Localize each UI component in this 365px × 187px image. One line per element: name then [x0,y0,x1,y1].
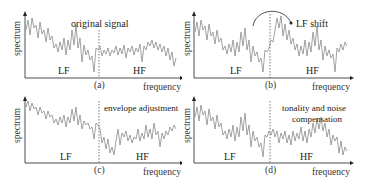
y-axis-label-a: spectrum [12,21,22,56]
annotation-b: LF shift [296,19,328,29]
band-label-lf-b: LF [230,66,242,76]
panel-d: spectrum tonality and noise compensation… [182,93,364,186]
band-label-lf-d: LF [224,152,236,162]
band-label-hf-a: HF [133,66,146,76]
spectrum-plot-a [0,0,182,93]
caption-b: (b) [265,80,276,90]
band-label-lf-c: LF [60,152,72,162]
y-axis-label-d: spectrum [182,108,192,143]
x-axis-label-a: frequency [143,82,181,92]
panel-c: spectrum envelope adjustment LF HF (c) f… [0,93,182,186]
panel-b: spectrum LF shift LF HF (b) frequency [182,0,364,93]
caption-a: (a) [94,80,105,90]
x-axis-label-b: frequency [312,82,350,92]
caption-c: (c) [94,165,105,175]
annotation-c: envelope adjustment [104,104,178,113]
annotation-a: original signal [71,19,129,29]
band-label-hf-c: HF [136,152,149,162]
band-label-lf-a: LF [58,66,70,76]
band-label-hf-b: HF [306,66,319,76]
x-axis-label-c: frequency [143,167,181,177]
x-axis-label-d: frequency [312,167,350,177]
y-axis-label-b: spectrum [182,21,192,56]
caption-d: (d) [265,165,276,175]
band-label-hf-d: HF [300,152,313,162]
panel-a: spectrum original signal LF HF (a) frequ… [0,0,182,93]
y-axis-label-c: spectrum [12,108,22,143]
annotation-d-line1: tonality and noise [282,104,346,113]
annotation-d-line2: compensation [292,115,342,124]
